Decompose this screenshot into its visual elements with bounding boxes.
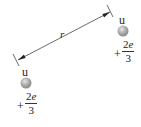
distance-label: r: [60, 29, 64, 40]
charge-fraction-right: 2e 3: [122, 39, 134, 64]
arrowhead-right-icon: [103, 12, 111, 18]
arrowhead-left-icon: [18, 55, 26, 61]
particle-sphere-left: [21, 78, 32, 89]
charge-sign-left: +: [17, 100, 24, 112]
particle-sphere-right: [118, 26, 129, 37]
end-tick-right: [107, 5, 113, 17]
particle-name-left: u: [22, 66, 28, 78]
charge-sign-right: +: [114, 48, 121, 60]
particle-name-right: u: [119, 14, 125, 26]
charge-fraction-left: 2e 3: [25, 91, 37, 116]
